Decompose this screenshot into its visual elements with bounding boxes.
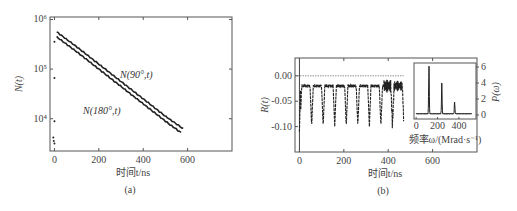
- x-tick-label-a: 200: [91, 154, 106, 165]
- inset-x-axis-title: 频率ω/(Mrad·s⁻¹): [409, 133, 482, 146]
- plot-frame-a: [50, 17, 232, 151]
- y-tick-label-b: -0.10: [271, 121, 292, 132]
- inset-y-tick-label: 0: [481, 109, 486, 120]
- scatter-point-a: [53, 120, 55, 122]
- y-tick-label-b: 0.00: [275, 70, 293, 81]
- panel-label-a: (a): [124, 184, 135, 196]
- x-axis-a: 0200400600: [52, 17, 195, 165]
- annotation-n90: N(90°,t): [119, 69, 153, 81]
- inset-y-axis-title: P(ω): [490, 81, 502, 102]
- x-tick-label-a: 0: [52, 154, 57, 165]
- scatter-point-a: [53, 77, 55, 79]
- scatter-group-a: [52, 41, 55, 145]
- inset-x-tick-label: 400: [451, 120, 466, 131]
- y-tick-label-a: 10⁵: [34, 63, 48, 74]
- scatter-point-a: [53, 143, 55, 145]
- series-line-n180: [57, 36, 181, 132]
- y-axis-title-a: N(t): [13, 75, 25, 93]
- inset-spectrum: 0200400 0246 频率ω/(Mrad·s⁻¹) P(ω): [409, 61, 502, 146]
- panel-a: 0200400600 10⁴10⁵10⁶ N(90°,t) N(180°,t) …: [13, 13, 232, 196]
- inset-frame: [414, 63, 476, 119]
- panel-label-b: (b): [377, 185, 389, 197]
- scatter-point-a: [53, 41, 55, 43]
- inset-y-tick-label: 6: [481, 61, 486, 72]
- x-tick-label-b: 400: [381, 155, 396, 166]
- x-tick-label-b: 600: [425, 155, 440, 166]
- y-tick-label-a: 10⁴: [34, 113, 48, 124]
- y-axis-b: 0.00-0.05-0.10: [271, 70, 298, 132]
- x-tick-label-b: 0: [297, 155, 302, 166]
- x-tick-label-a: 600: [180, 154, 195, 165]
- inset-y-tick-label: 4: [481, 77, 486, 88]
- series-group-b: [299, 80, 403, 132]
- x-axis-title-b: 时间t/ns: [368, 167, 403, 179]
- inset-x-tick-label: 0: [414, 120, 419, 131]
- x-tick-label-b: 200: [336, 155, 351, 166]
- y-axis-title-b: R(t): [259, 97, 271, 114]
- y-tick-label-a: 10⁶: [34, 13, 48, 24]
- scatter-point-a: [52, 137, 54, 139]
- x-tick-label-a: 400: [136, 154, 151, 165]
- x-axis-title-a: 时间t/ns: [116, 166, 151, 178]
- figure: 0200400600 10⁴10⁵10⁶ N(90°,t) N(180°,t) …: [0, 0, 517, 211]
- series-line-rt: [299, 80, 403, 132]
- scatter-point-a: [53, 140, 55, 142]
- panel-b: 0200400600 0.00-0.05-0.10 R(t) 时间t/ns (b…: [259, 58, 502, 197]
- annotation-n180: N(180°,t): [82, 105, 121, 117]
- series-group-a: [57, 32, 184, 132]
- y-tick-label-b: -0.05: [271, 95, 292, 106]
- inset-x-tick-label: 200: [430, 120, 445, 131]
- inset-y-tick-label: 2: [481, 93, 486, 104]
